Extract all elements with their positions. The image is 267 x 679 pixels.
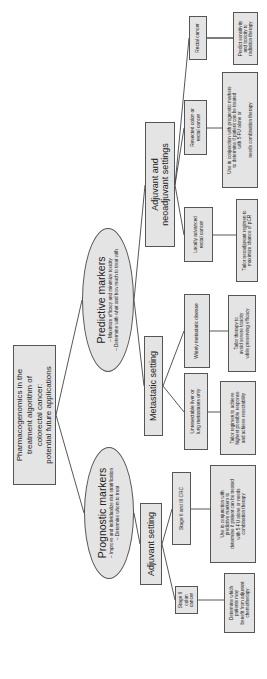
stage-2-3-crc-node: Stage II and III CRC — [172, 472, 191, 545]
prognostic-markers-title: Prognostic markers — [97, 468, 109, 558]
rectal-cancer-node: Rectal cancer — [189, 16, 207, 60]
stage-2-colon-node: Stage II colon cancer — [175, 586, 198, 614]
resected-cancer-node: Resected colon or rectal cancer — [184, 100, 207, 155]
tailor-neoadjuvant-node: Tailor neoadjuvant regimen to maximize c… — [236, 199, 258, 282]
tailor-regimen-node: Tailor regimen to achieve highest possib… — [220, 381, 256, 455]
predictive-markers-title: Predictive markers — [96, 257, 108, 344]
prognostic-markers-node: Prognostic markers – Improve and individ… — [84, 447, 134, 579]
tailor-therapy-node: Tailor therapy to avoid severe toxicity … — [228, 295, 256, 372]
predict-sensitivity-node: Predict sensitivity and toxicity to radi… — [233, 12, 258, 65]
determine-benefit-node: Determine which patients may benefit fro… — [224, 573, 255, 633]
predictive-markers-sub2: – Determine with what and how much to tr… — [114, 249, 120, 351]
metastatic-setting-node: Metastatic setting — [144, 336, 163, 436]
predictive-markers-node: Predictive markers – Maximize efficacy a… — [82, 228, 134, 372]
use-with-prognostic-node: Use in conjunction with prognostic marke… — [222, 72, 258, 188]
widely-metastatic-node: Widely metastatic disease — [184, 294, 210, 368]
unresectable-metastases-node: Unresectable liver or lung metastases on… — [184, 373, 208, 450]
use-with-predictive-node: Use in conjunction with predictive marke… — [210, 465, 256, 563]
root-node: Pharmacogenomics in the treatment algori… — [13, 345, 56, 485]
pharmacogenomics-diagram: Pharmacogenomics in the treatment algori… — [0, 0, 267, 679]
adjuvant-neoadjuvant-settings-node: Adjuvant and neoadjuvant settings — [145, 122, 175, 247]
prognostic-markers-sub2: – Determine whom to treat — [115, 486, 121, 540]
locally-advanced-node: Locally advanced rectal cancer — [184, 207, 213, 262]
adjuvant-setting-node: Adjuvant setting — [140, 503, 162, 585]
